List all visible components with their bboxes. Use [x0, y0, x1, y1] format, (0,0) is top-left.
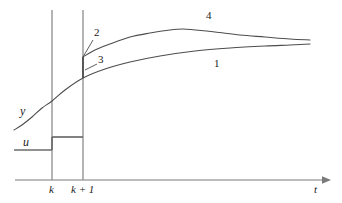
leader-line-3	[85, 64, 97, 70]
label-curve-4: 4	[206, 10, 212, 21]
label-curve-3: 3	[98, 54, 104, 65]
diagram-canvas	[0, 0, 342, 203]
response-curve-1	[14, 44, 310, 130]
label-curve-2: 2	[94, 27, 100, 38]
label-curve-1: 1	[214, 58, 220, 69]
response-diagram: y u 2 3 4 1 k k + 1 t	[0, 0, 342, 203]
t-axis-arrow-icon	[322, 176, 331, 184]
label-input-u: u	[23, 136, 29, 148]
response-curve-4	[83, 29, 310, 57]
tick-label-k: k	[49, 184, 54, 195]
axis-label-t: t	[314, 184, 317, 195]
label-output-y: y	[20, 105, 25, 117]
tick-label-k-plus-1: k + 1	[71, 184, 94, 195]
